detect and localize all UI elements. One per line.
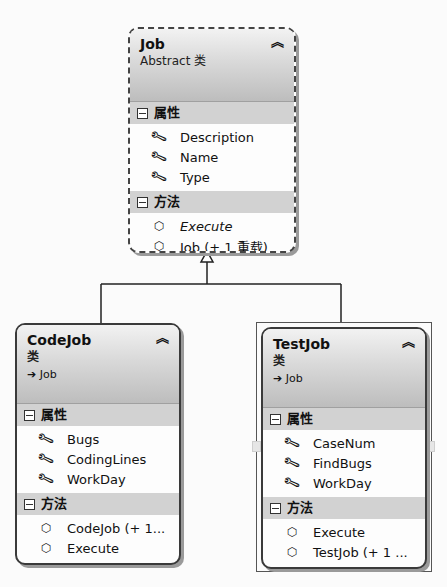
base-class: ➔ Job [273,371,415,386]
base-class-name: Job [40,368,57,381]
method-name: Job (+ 1 重载) [180,237,268,254]
base-class: ➔ Job [27,367,169,382]
resize-handle-right[interactable] [426,441,435,452]
minus-box-icon[interactable] [24,410,35,421]
section-properties[interactable]: 属性 [17,404,179,426]
double-chevron-up-icon[interactable]: ︽ [156,331,169,344]
method-item[interactable]: ⬡Execute [263,522,425,542]
wrench-icon: 🔧︎ [150,168,168,186]
section-properties[interactable]: 属性 [130,102,294,124]
class-kind: Abstract 类 [140,53,284,69]
method-name: TestJob (+ 1 ... [313,545,408,560]
cube-icon: ⬡ [152,219,166,233]
section-properties[interactable]: 属性 [263,408,425,430]
property-item[interactable]: 🔧︎CaseNum [263,433,425,453]
class-name: TestJob [273,335,415,353]
class-header[interactable]: TestJob 类 ➔ Job ︽ [263,329,425,408]
resize-handle-left[interactable] [252,441,261,452]
wrench-icon: 🔧︎ [283,454,301,472]
class-kind: 类 [273,353,415,369]
wrench-icon: 🔧︎ [283,434,301,452]
property-item[interactable]: 🔧︎Bugs [17,429,179,449]
section-label: 属性 [154,102,180,124]
method-item[interactable]: ⬡Execute [17,538,179,558]
section-label: 属性 [287,408,313,430]
cube-icon: ⬡ [152,239,166,253]
section-methods[interactable]: 方法 [130,191,294,213]
section-methods[interactable]: 方法 [17,493,179,515]
class-name: CodeJob [27,331,169,349]
method-name: Execute [313,525,365,540]
arrow-right-icon: ➔ [27,368,40,381]
class-header[interactable]: CodeJob 类 ➔ Job ︽ [17,325,179,404]
class-kind: 类 [27,349,169,365]
arrow-right-icon: ➔ [273,372,286,385]
double-chevron-up-icon[interactable]: ︽ [402,335,415,348]
minus-box-icon[interactable] [24,499,35,510]
property-name: WorkDay [313,476,372,491]
cube-icon: ⬡ [39,521,53,535]
property-name: Name [180,150,218,165]
method-name: Execute [180,219,232,234]
wrench-icon: 🔧︎ [283,474,301,492]
method-list: ⬡Execute ⬡Job (+ 1 重载) [130,213,294,253]
property-name: Bugs [67,432,99,447]
wrench-icon: 🔧︎ [37,430,55,448]
wrench-icon: 🔧︎ [150,148,168,166]
wrench-icon: 🔧︎ [150,128,168,146]
property-name: WorkDay [67,472,126,487]
property-item[interactable]: 🔧︎WorkDay [263,473,425,493]
property-item[interactable]: 🔧︎CodingLines [17,449,179,469]
method-item[interactable]: ⬡TestJob (+ 1 ... [263,542,425,562]
method-item[interactable]: ⬡CodeJob (+ 1... [17,518,179,538]
property-list: 🔧︎Description 🔧︎Name 🔧︎Type [130,124,294,191]
minus-box-icon[interactable] [270,503,281,514]
property-item[interactable]: 🔧︎FindBugs [263,453,425,473]
class-testjob[interactable]: TestJob 类 ➔ Job ︽ 属性 🔧︎CaseNum 🔧︎FindBug… [261,327,427,569]
property-name: Description [180,130,254,145]
property-name: CaseNum [313,436,375,451]
section-label: 方法 [154,191,180,213]
section-label: 方法 [287,497,313,519]
property-name: FindBugs [313,456,372,471]
minus-box-icon[interactable] [137,108,148,119]
property-item[interactable]: 🔧︎Description [130,127,294,147]
method-name: Execute [67,541,119,556]
property-item[interactable]: 🔧︎Name [130,147,294,167]
wrench-icon: 🔧︎ [37,470,55,488]
section-methods[interactable]: 方法 [263,497,425,519]
method-name: CodeJob (+ 1... [67,521,165,536]
property-item[interactable]: 🔧︎WorkDay [17,469,179,489]
minus-box-icon[interactable] [137,197,148,208]
class-job[interactable]: Job Abstract 类 ︽ 属性 🔧︎Description 🔧︎Name… [128,27,296,253]
double-chevron-up-icon[interactable]: ︽ [271,35,284,48]
base-class-name: Job [286,372,303,385]
class-diagram-canvas[interactable]: Job Abstract 类 ︽ 属性 🔧︎Description 🔧︎Name… [0,0,447,587]
wrench-icon: 🔧︎ [37,450,55,468]
method-list: ⬡Execute ⬡TestJob (+ 1 ... [263,519,425,566]
cube-icon: ⬡ [285,525,299,539]
minus-box-icon[interactable] [270,414,281,425]
class-header[interactable]: Job Abstract 类 ︽ [130,29,294,102]
method-list: ⬡CodeJob (+ 1... ⬡Execute [17,515,179,562]
cube-icon: ⬡ [285,545,299,559]
class-name: Job [140,35,284,53]
section-label: 属性 [41,404,67,426]
section-label: 方法 [41,493,67,515]
property-item[interactable]: 🔧︎Type [130,167,294,187]
cube-icon: ⬡ [39,541,53,555]
property-list: 🔧︎Bugs 🔧︎CodingLines 🔧︎WorkDay [17,426,179,493]
property-name: Type [180,170,210,185]
method-item[interactable]: ⬡Execute [130,216,294,236]
property-name: CodingLines [67,452,146,467]
class-codejob[interactable]: CodeJob 类 ➔ Job ︽ 属性 🔧︎Bugs 🔧︎CodingLine… [15,323,181,565]
method-item[interactable]: ⬡Job (+ 1 重载) [130,236,294,253]
property-list: 🔧︎CaseNum 🔧︎FindBugs 🔧︎WorkDay [263,430,425,497]
